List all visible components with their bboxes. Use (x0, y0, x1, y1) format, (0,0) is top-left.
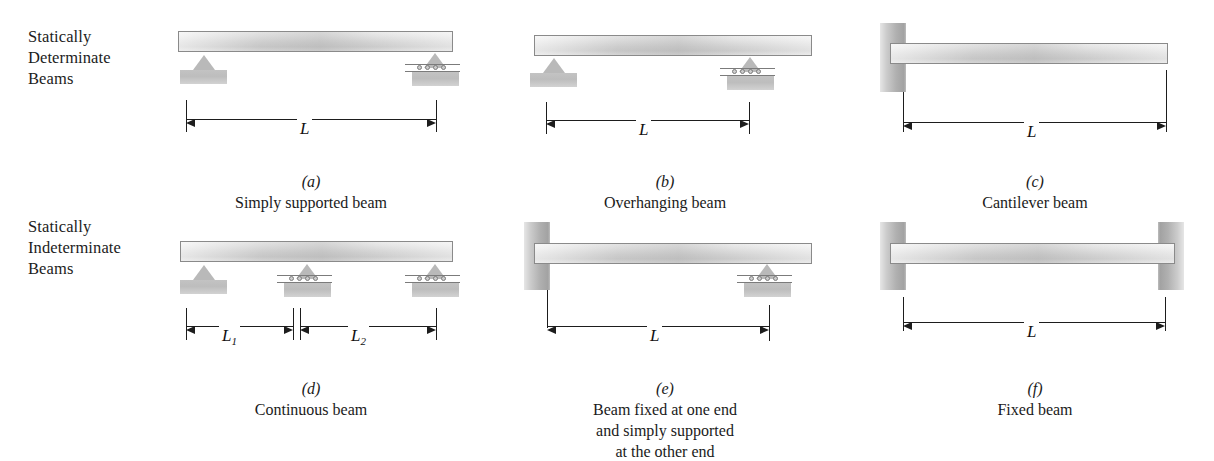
beam-a (178, 31, 453, 52)
beam-c (890, 43, 1168, 64)
dimension-label-f: L (1024, 322, 1039, 342)
caption-text-e: Beam fixed at one end and simply support… (593, 401, 737, 460)
caption-d: (d) Continuous beam (166, 357, 456, 420)
row-label-statically-indeterminate: Statically Indeterminate Beams (28, 216, 121, 279)
beam-e (534, 243, 812, 264)
dimension-label-c: L (1024, 122, 1039, 142)
caption-letter-e: (e) (656, 380, 674, 397)
caption-letter-f: (f) (1027, 380, 1042, 397)
beam-d (180, 241, 453, 262)
dimension-label-e: L (647, 326, 662, 346)
caption-text-a: Simply supported beam (235, 194, 387, 211)
dimension-label-a: L (297, 119, 312, 139)
caption-text-c: Cantilever beam (982, 194, 1087, 211)
caption-letter-d: (d) (302, 380, 321, 397)
dimension-label-d2: L2 (348, 326, 369, 347)
caption-f: (f) Fixed beam (890, 357, 1180, 420)
caption-text-f: Fixed beam (997, 401, 1072, 418)
caption-b: (b) Overhanging beam (520, 150, 810, 213)
caption-letter-b: (b) (656, 173, 675, 190)
caption-text-b: Overhanging beam (604, 194, 726, 211)
caption-e: (e) Beam fixed at one end and simply sup… (520, 357, 810, 461)
beam-f (890, 243, 1175, 264)
caption-c: (c) Cantilever beam (890, 150, 1180, 213)
caption-text-d: Continuous beam (255, 401, 367, 418)
caption-letter-a: (a) (302, 173, 321, 190)
dimension-label-b: L (636, 120, 651, 140)
beam-b (534, 35, 812, 56)
caption-letter-c: (c) (1026, 173, 1044, 190)
row-label-statically-determinate: Statically Determinate Beams (28, 26, 111, 89)
dimension-label-d1: L1 (219, 326, 240, 347)
caption-a: (a) Simply supported beam (166, 150, 456, 213)
